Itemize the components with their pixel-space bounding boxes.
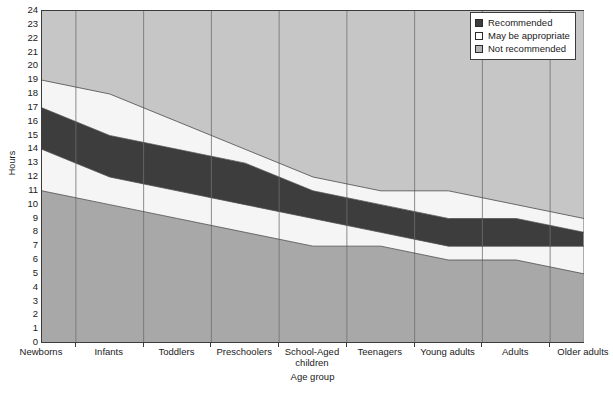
legend-label: Not recommended	[488, 44, 566, 54]
y-axis-tick-label: 2	[0, 309, 41, 319]
x-axis-tick-mark	[143, 343, 144, 347]
y-axis-tick-label: 23	[0, 19, 41, 29]
y-axis-tick-label: 8	[0, 226, 41, 236]
y-axis-tick-label: 19	[0, 74, 41, 84]
x-axis-tick-mark	[75, 343, 76, 347]
x-axis-tick-label: Preschoolers	[214, 346, 274, 357]
chart-legend: Recommended May be appropriate Not recom…	[470, 12, 576, 60]
y-axis-tick-label: 22	[0, 33, 41, 43]
legend-swatch-may-be-appropriate	[475, 32, 483, 40]
x-axis-tick-label: Young adults	[417, 346, 477, 357]
legend-item: May be appropriate	[475, 30, 570, 42]
x-axis-title: Age group	[41, 371, 584, 382]
y-axis-tick-label: 12	[0, 171, 41, 181]
y-axis-tick-label: 24	[0, 5, 41, 15]
x-axis-tick-mark	[278, 343, 279, 347]
x-axis-tick-mark	[481, 343, 482, 347]
x-axis-tick-label: Newborns	[11, 346, 71, 357]
x-axis-tick-label: Toddlers	[146, 346, 206, 357]
y-axis-tick-label: 15	[0, 130, 41, 140]
legend-label: Recommended	[488, 18, 552, 28]
x-axis-line	[41, 342, 584, 343]
y-axis-tick-label: 20	[0, 60, 41, 70]
legend-item: Not recommended	[475, 43, 570, 55]
x-axis-tick-label: Teenagers	[350, 346, 410, 357]
x-axis-tick-label: Older adults	[553, 346, 613, 357]
x-axis-tick-label: Infants	[79, 346, 139, 357]
legend-swatch-not-recommended	[475, 45, 483, 53]
x-axis-tick-label: Adults	[485, 346, 545, 357]
y-axis-tick-label: 5	[0, 268, 41, 278]
y-axis-tick-label: 4	[0, 282, 41, 292]
y-axis-tick-label: 11	[0, 185, 41, 195]
y-axis-tick-label: 16	[0, 116, 41, 126]
y-axis-tick-label: 6	[0, 254, 41, 264]
legend-label: May be appropriate	[488, 31, 570, 41]
y-axis-tick-label: 14	[0, 143, 41, 153]
x-axis-tick-mark	[414, 343, 415, 347]
y-axis-tick-label: 18	[0, 88, 41, 98]
legend-swatch-recommended	[475, 19, 483, 27]
y-axis-tick-labels: 0123456789101112131415161718192021222324	[0, 0, 41, 393]
y-axis-tick-label: 9	[0, 213, 41, 223]
y-axis-tick-label: 13	[0, 157, 41, 167]
y-axis-tick-label: 3	[0, 296, 41, 306]
bottom-caption-sliver	[330, 384, 604, 393]
stacked-area-plot	[42, 11, 584, 343]
y-axis-tick-label: 1	[0, 323, 41, 333]
y-axis-tick-label: 17	[0, 102, 41, 112]
x-axis-tick-mark	[549, 343, 550, 347]
x-axis-tick-label: School-Aged children	[282, 346, 342, 368]
y-axis-tick-label: 10	[0, 199, 41, 209]
y-axis-tick-label: 7	[0, 240, 41, 250]
legend-item: Recommended	[475, 17, 570, 29]
x-axis-tick-mark	[210, 343, 211, 347]
y-axis-tick-label: 21	[0, 47, 41, 57]
x-axis-tick-mark	[346, 343, 347, 347]
